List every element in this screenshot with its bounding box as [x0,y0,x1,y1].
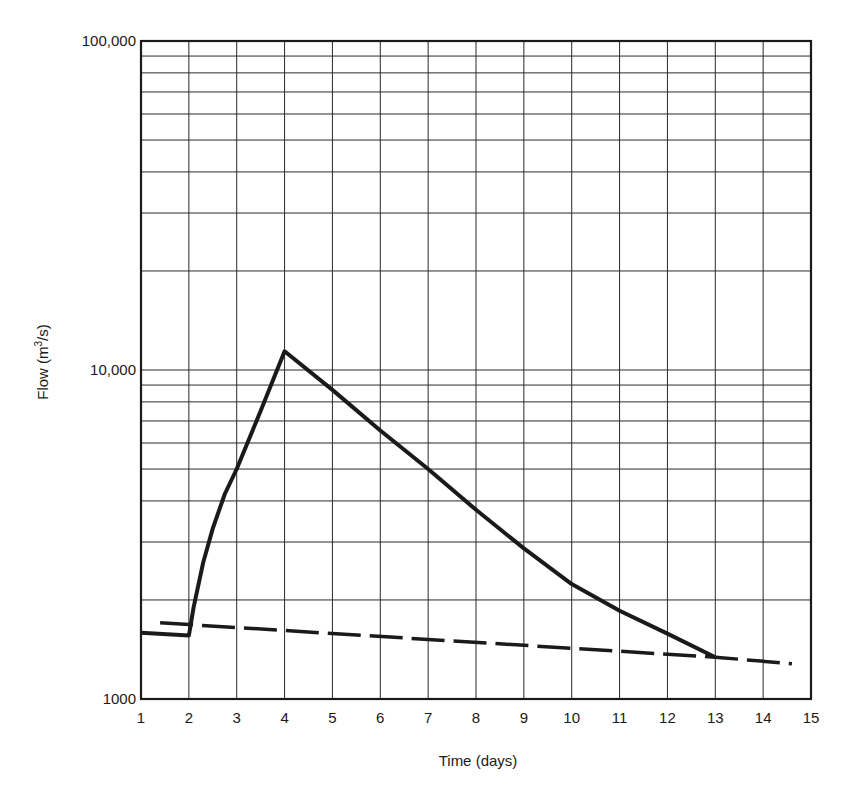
y-axis-title: Flow (m3/s) [33,324,51,400]
y-tick-label: 1000 [103,690,136,707]
x-tick-label: 9 [520,709,528,726]
x-tick-label: 1 [137,709,145,726]
x-tick-label: 6 [376,709,384,726]
y-tick-label: 100,000 [82,32,136,49]
x-tick-label: 15 [803,709,820,726]
x-tick-label: 4 [280,709,288,726]
x-tick-label: 5 [328,709,336,726]
x-axis-title: Time (days) [439,752,518,769]
x-tick-label: 11 [612,709,628,726]
x-tick-label: 8 [472,709,480,726]
y-tick-label: 10,000 [90,361,136,378]
flow-hydrograph-chart: 100010,000100,000 123456789101112131415 … [0,0,848,796]
x-tick-labels: 123456789101112131415 [137,709,820,726]
x-tick-label: 13 [707,709,724,726]
x-tick-label: 7 [424,709,432,726]
x-tick-label: 10 [563,709,580,726]
x-tick-label: 2 [185,709,193,726]
x-tick-label: 3 [233,709,241,726]
x-tick-label: 12 [659,709,676,726]
x-tick-label: 14 [755,709,772,726]
series-layer [141,351,792,663]
y-tick-labels: 100010,000100,000 [82,32,136,707]
